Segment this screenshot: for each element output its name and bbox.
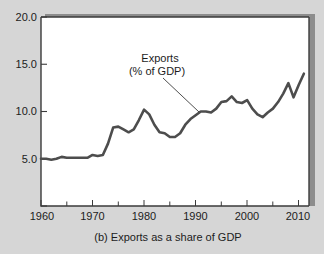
- exports-share-of-gdp-figure: 5.0 10.0 15.0 20.0 1960 1970 1980 1990 2…: [0, 0, 324, 254]
- annotation-label-line1: Exports: [141, 52, 179, 64]
- y-tick-label-15: 15.0: [16, 58, 37, 70]
- y-tick-label-5: 5.0: [22, 153, 37, 165]
- x-tick-label-1960: 1960: [30, 210, 54, 222]
- x-tick-label-2000: 2000: [235, 210, 259, 222]
- y-tick-label-20: 20.0: [16, 11, 37, 23]
- x-tick-label-1990: 1990: [183, 210, 207, 222]
- y-tick-label-10: 10.0: [16, 105, 37, 117]
- figure-caption: (b) Exports as a share of GDP: [94, 231, 241, 243]
- chart-svg: 5.0 10.0 15.0 20.0 1960 1970 1980 1990 2…: [0, 0, 324, 254]
- annotation-label-line2: (% of GDP): [129, 65, 185, 77]
- x-tick-label-1970: 1970: [80, 210, 104, 222]
- x-tick-label-2010: 2010: [286, 210, 310, 222]
- x-tick-label-1980: 1980: [132, 210, 156, 222]
